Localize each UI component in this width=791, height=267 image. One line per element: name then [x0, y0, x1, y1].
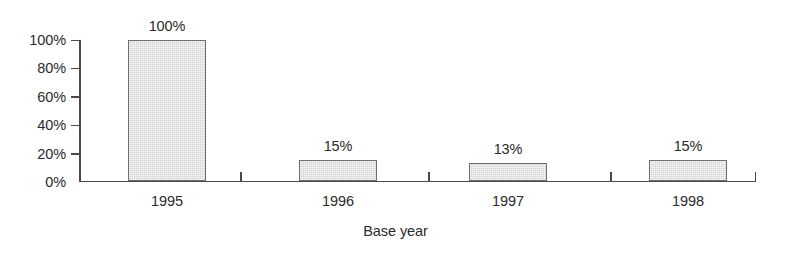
bar-1995	[128, 40, 206, 181]
bar-value-label-1998: 15%	[649, 139, 727, 154]
x-axis-category-label-1996: 1996	[299, 194, 377, 209]
bar-value-label-1995: 100%	[128, 19, 206, 34]
y-axis-tick-40	[71, 125, 79, 127]
x-axis-category-label-1998: 1998	[649, 194, 727, 209]
y-axis-tick-100	[71, 40, 79, 42]
x-axis-separator-tick-3	[610, 172, 612, 181]
y-axis-label-0: 0%	[45, 175, 66, 190]
x-axis-separator-tick-2	[428, 172, 430, 181]
bar-1997	[469, 163, 547, 181]
y-axis-tick-20	[71, 153, 79, 155]
x-axis-separator-tick-1	[240, 172, 242, 181]
y-axis-label-20: 20%	[37, 147, 66, 162]
y-axis-label-60: 60%	[37, 90, 66, 105]
bar-value-label-1997: 13%	[469, 142, 547, 157]
y-axis-tick-80	[71, 68, 79, 70]
bar-1998	[649, 160, 727, 181]
bar-1996	[299, 160, 377, 181]
x-axis-end-tick	[755, 172, 757, 181]
bar-value-label-1996: 15%	[299, 139, 377, 154]
y-axis-line	[79, 40, 81, 182]
bar-chart: 100% 80% 60% 40% 20% 0% 100% 1995 15% 19…	[0, 0, 791, 267]
x-axis-title: Base year	[0, 224, 791, 239]
y-axis-label-80: 80%	[37, 61, 66, 76]
y-axis-label-100: 100%	[29, 33, 66, 48]
x-axis-category-label-1997: 1997	[469, 194, 547, 209]
x-axis-category-label-1995: 1995	[128, 194, 206, 209]
y-axis-label-40: 40%	[37, 118, 66, 133]
y-axis-tick-60	[71, 96, 79, 98]
